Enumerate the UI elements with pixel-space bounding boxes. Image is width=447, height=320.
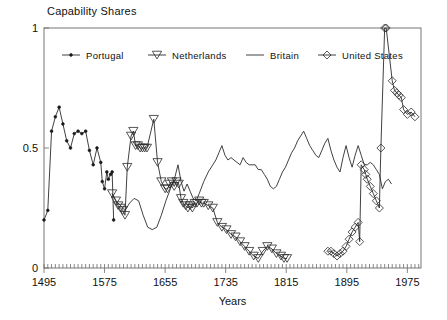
series-marker [101, 180, 104, 183]
series-line [112, 131, 391, 229]
series-line [328, 28, 415, 256]
series-marker [54, 115, 57, 118]
series-line [112, 119, 287, 258]
series-marker [58, 106, 61, 109]
series-marker [50, 130, 53, 133]
series-marker [43, 219, 46, 222]
series-britain [112, 131, 391, 229]
series-marker [84, 130, 87, 133]
series-marker [105, 171, 108, 174]
series-line [44, 107, 114, 220]
series-marker [99, 161, 102, 164]
legend-item-united-states[interactable]: United States [318, 50, 403, 61]
chart-root: Capability Shares PortugalNetherlandsBri… [0, 0, 447, 320]
x-tick-label: 1575 [92, 276, 116, 288]
series-marker [92, 163, 95, 166]
y-tick-label: 0.5 [23, 142, 38, 154]
series-marker [107, 178, 110, 181]
series-marker [62, 123, 65, 126]
series-marker [65, 139, 68, 142]
series-marker [73, 132, 76, 135]
x-tick-label: 1975 [395, 276, 419, 288]
series-marker [80, 132, 83, 135]
legend-item-netherlands[interactable]: Netherlands [148, 50, 227, 61]
legend-label: Portugal [86, 50, 124, 61]
series-marker [112, 219, 115, 222]
series-marker [77, 130, 80, 133]
y-tick-label: 1 [32, 22, 38, 34]
legend-item-britain[interactable]: Britain [246, 50, 299, 61]
x-tick-label: 1815 [274, 276, 298, 288]
capability-shares-chart: PortugalNetherlandsBritainUnited States … [0, 0, 447, 320]
legend-label: United States [342, 50, 403, 61]
series-marker [46, 209, 49, 212]
x-tick-label: 1735 [213, 276, 237, 288]
series-marker [88, 149, 91, 152]
series-marker [411, 113, 419, 121]
series-marker [111, 171, 114, 174]
x-axis-title: Years [219, 295, 247, 307]
y-tick-label: 0 [32, 262, 38, 274]
series-marker [69, 147, 72, 150]
legend-label: Britain [270, 50, 299, 61]
x-tick-label: 1895 [335, 276, 359, 288]
series-netherlands [108, 115, 292, 262]
x-tick-label: 1655 [153, 276, 177, 288]
legend-label: Netherlands [172, 50, 227, 61]
series-portugal [43, 106, 115, 222]
legend-marker-dot-icon [70, 54, 73, 57]
x-tick-label: 1495 [32, 276, 56, 288]
series-marker [96, 147, 99, 150]
legend-layer: PortugalNetherlandsBritainUnited States [62, 50, 403, 61]
plot-frame [44, 28, 421, 268]
series-marker [103, 187, 106, 190]
legend-item-portugal[interactable]: Portugal [62, 50, 124, 61]
